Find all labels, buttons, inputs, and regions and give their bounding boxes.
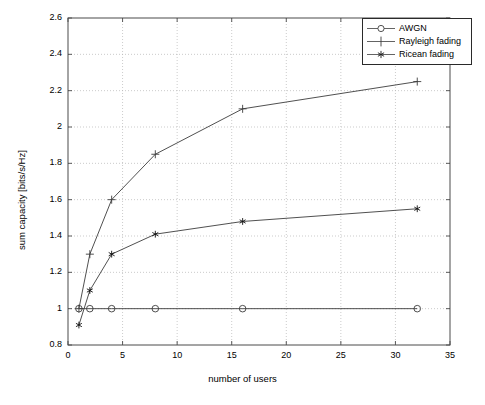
star-marker-icon [366,48,396,61]
y-tick-label: 1.8 [28,157,62,167]
circle-marker-icon [366,22,396,35]
y-tick-label: 1.6 [28,194,62,204]
x-tick-label: 30 [382,350,408,360]
series-awgn [76,305,421,312]
legend-label-rayleigh: Rayleigh fading [396,35,461,48]
y-tick-label: 1.4 [28,230,62,240]
figure-canvas: sum capacity [bits/s/Hz] number of users… [0,0,485,405]
x-axis-label: number of users [0,373,485,384]
y-tick-label: 2.4 [28,48,62,58]
series-rayleigh-fading [75,78,421,313]
x-tick-label: 15 [219,350,245,360]
y-tick-label: 0.8 [28,339,62,349]
x-tick-label: 5 [110,350,136,360]
x-tick-label: 20 [273,350,299,360]
y-axis-label: sum capacity [bits/s/Hz] [16,150,27,250]
y-tick-label: 1.2 [28,266,62,276]
legend-label-awgn: AWGN [396,22,427,35]
grid-lines [68,18,450,345]
y-tick-label: 2.2 [28,85,62,95]
x-tick-label: 0 [55,350,81,360]
axes-frame [68,18,450,345]
chart-legend: AWGN Rayleigh fading Ricean fading [362,18,472,65]
series-ricean-fading [76,205,420,328]
legend-item-rayleigh: Rayleigh fading [366,35,467,48]
legend-item-awgn: AWGN [366,22,467,35]
data-series-layer [75,78,421,329]
x-tick-label: 35 [437,350,463,360]
y-tick-label: 2.6 [28,12,62,22]
y-tick-label: 2 [28,121,62,131]
legend-item-ricean: Ricean fading [366,48,467,61]
x-tick-label: 10 [164,350,190,360]
plus-marker-icon [366,35,396,48]
x-tick-label: 25 [328,350,354,360]
legend-label-ricean: Ricean fading [396,48,454,61]
tick-marks [68,18,450,345]
y-tick-label: 1 [28,303,62,313]
